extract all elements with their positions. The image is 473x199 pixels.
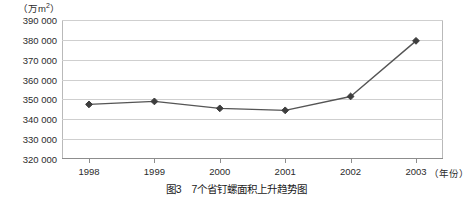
x-axis-tick-mark bbox=[285, 159, 286, 163]
x-axis-tick-label: 2003 bbox=[405, 166, 426, 177]
x-axis-tick-mark bbox=[220, 159, 221, 163]
x-axis-tick-label: 1998 bbox=[78, 166, 99, 177]
y-axis-tick-label: 330 000 bbox=[23, 134, 57, 145]
y-axis-tick-label: 360 000 bbox=[23, 74, 57, 85]
figure-container: （万m2） 390 000380 000370 000360 000350 00… bbox=[0, 0, 473, 199]
x-axis-tick-label: 2002 bbox=[340, 166, 361, 177]
x-axis-tick-mark bbox=[154, 159, 155, 163]
x-axis-tick-label: 1999 bbox=[144, 166, 165, 177]
plot-area: 390 000380 000370 000360 000350 000340 0… bbox=[62, 20, 443, 159]
series-line bbox=[89, 41, 416, 111]
data-point-marker bbox=[282, 107, 289, 114]
x-axis-tick-mark bbox=[89, 159, 90, 163]
y-axis-tick-label: 350 000 bbox=[23, 94, 57, 105]
y-axis-unit-label: （万m2） bbox=[18, 1, 60, 15]
y-axis-tick-label: 390 000 bbox=[23, 15, 57, 26]
y-axis-unit-prefix: （万m bbox=[18, 3, 46, 14]
data-point-marker bbox=[216, 105, 223, 112]
figure-caption: 图3 7个省钉螺面积上升趋势图 bbox=[0, 181, 473, 196]
x-axis-tick-mark bbox=[416, 159, 417, 163]
y-axis-tick-label: 370 000 bbox=[23, 54, 57, 65]
y-axis-tick-label: 380 000 bbox=[23, 34, 57, 45]
data-point-marker bbox=[151, 98, 158, 105]
y-axis-tick-label: 340 000 bbox=[23, 114, 57, 125]
x-axis-tick-label: 2001 bbox=[275, 166, 296, 177]
x-axis-unit-label: （年份） bbox=[429, 166, 469, 180]
x-axis-tick-label: 2000 bbox=[209, 166, 230, 177]
y-axis-tick-label: 320 000 bbox=[23, 154, 57, 165]
x-axis-tick-mark bbox=[351, 159, 352, 163]
y-axis-unit-suffix: ） bbox=[50, 3, 60, 14]
data-point-marker bbox=[86, 101, 93, 108]
data-series-svg bbox=[62, 20, 443, 159]
